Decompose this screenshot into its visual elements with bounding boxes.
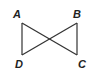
bowtie-diagram: A B C D: [0, 0, 93, 73]
vertex-label-a: A: [12, 8, 21, 20]
vertex-label-d: D: [15, 58, 23, 70]
vertex-label-c: C: [78, 58, 87, 70]
vertex-label-b: B: [73, 8, 81, 20]
